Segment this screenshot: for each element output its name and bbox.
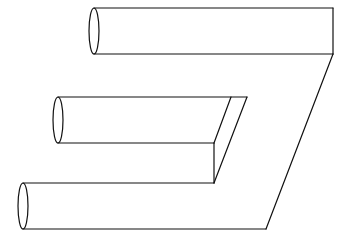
top-prong	[89, 8, 333, 54]
outer-diagonal	[266, 54, 333, 229]
bottom-prong-end-ellipse	[18, 183, 28, 229]
middle-prong-end-ellipse	[53, 97, 63, 143]
impossible-fork-figure	[0, 0, 353, 242]
middle-prong	[53, 97, 247, 183]
top-prong-end-ellipse	[89, 8, 99, 54]
bottom-prong	[18, 183, 266, 229]
